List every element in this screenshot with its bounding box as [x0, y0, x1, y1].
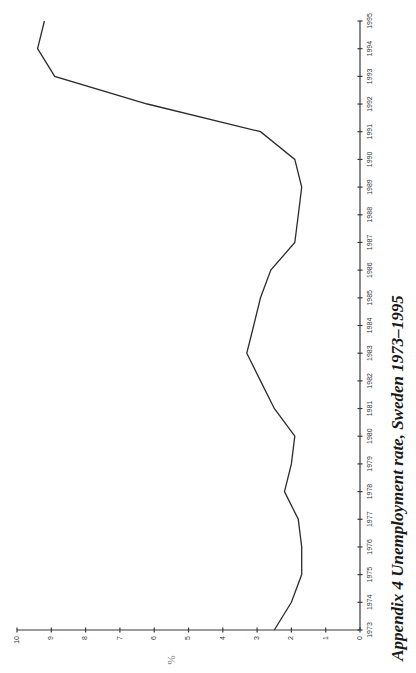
year-tick-label: 1989 [366, 179, 373, 195]
year-tick-label: 1981 [366, 401, 373, 417]
year-tick-label: 1984 [366, 318, 373, 334]
value-tick-label: 4 [219, 636, 226, 640]
value-tick-label: 2 [287, 636, 294, 640]
year-tick-label: 1979 [366, 456, 373, 472]
year-tick-label: 1978 [366, 484, 373, 500]
value-tick-label: 7 [116, 636, 123, 640]
year-tick-label: 1995 [366, 13, 373, 29]
value-tick-label: 3 [253, 636, 260, 640]
year-tick-label: 1973 [366, 622, 373, 638]
year-tick-label: 1994 [366, 41, 373, 57]
year-tick-label: 1977 [366, 511, 373, 527]
chart-caption: Appendix 4 Unemployment rate, Sweden 197… [388, 295, 408, 661]
value-tick-label: 1 [322, 636, 329, 640]
value-axis: 012345678910 [13, 628, 363, 644]
year-tick-label: 1991 [366, 124, 373, 140]
year-tick-label: 1990 [366, 152, 373, 168]
year-tick-label: 1980 [366, 428, 373, 444]
year-tick-label: 1988 [366, 207, 373, 223]
value-tick-label: 0 [356, 636, 363, 640]
year-tick-label: 1976 [366, 539, 373, 555]
year-axis: 1973197419751976197719781979198019811982… [358, 13, 373, 638]
value-tick-label: 5 [184, 636, 191, 640]
value-tick-label: 9 [47, 636, 54, 640]
year-tick-label: 1992 [366, 96, 373, 112]
year-tick-label: 1983 [366, 345, 373, 361]
value-tick-label: 6 [150, 636, 157, 640]
year-tick-label: 1993 [366, 68, 373, 84]
year-tick-label: 1986 [366, 262, 373, 278]
year-tick-label: 1982 [366, 373, 373, 389]
line-chart: 012345678910 197319741975197619771978197… [0, 0, 416, 673]
value-tick-label: 10 [13, 636, 20, 644]
value-tick-label: 8 [81, 636, 88, 640]
year-tick-label: 1985 [366, 290, 373, 306]
unemployment-rate-line [38, 21, 302, 630]
year-tick-label: 1974 [366, 594, 373, 610]
year-tick-label: 1975 [366, 567, 373, 583]
value-axis-unit-label: % [165, 655, 177, 664]
year-tick-label: 1987 [366, 235, 373, 251]
